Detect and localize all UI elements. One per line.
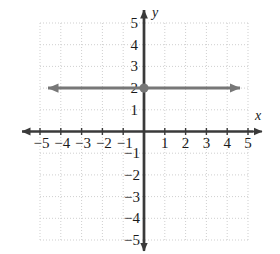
coordinate-plane-figure: 5 4 3 2 1 −1 −2 −3 −4 −5 −5 −4 −3 −2 −1 … (0, 0, 280, 254)
x-tick-label: −1 (117, 135, 133, 151)
x-tick-label: −2 (96, 135, 112, 151)
x-tick-label: 1 (161, 135, 169, 151)
x-tick-label: −4 (54, 135, 70, 151)
coordinate-plane-svg: 5 4 3 2 1 −1 −2 −3 −4 −5 −5 −4 −3 −2 −1 … (0, 0, 280, 254)
y-tick-label: −2 (124, 167, 140, 183)
y-tick-label: 5 (131, 15, 139, 31)
x-tick-label: −5 (34, 135, 50, 151)
data-point-marker (139, 84, 148, 93)
y-axis-label: y (150, 5, 159, 20)
y-tick-label: −4 (124, 210, 140, 226)
x-tick-label: 4 (223, 135, 231, 151)
x-tick-label: −3 (75, 135, 91, 151)
figure-background (0, 0, 280, 254)
y-tick-label: −3 (124, 189, 140, 205)
x-tick-label: 5 (244, 135, 252, 151)
x-axis-label: x (254, 108, 262, 123)
y-tick-label: 4 (131, 37, 139, 53)
x-tick-label: 3 (203, 135, 211, 151)
y-tick-label: 3 (131, 58, 139, 74)
y-tick-label: −5 (124, 232, 140, 248)
y-tick-label: 1 (131, 102, 139, 118)
x-tick-label: 2 (182, 135, 190, 151)
